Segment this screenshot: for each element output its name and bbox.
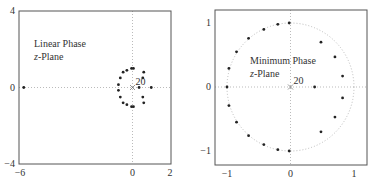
zero-marker [262, 143, 265, 146]
y-tick-label: 1 [206, 17, 211, 28]
zero-marker [341, 75, 344, 78]
zero-marker [235, 50, 238, 53]
x-tick-label: 0 [130, 167, 135, 178]
figure: −60240−420Linear Phasez-Plane−10110−120M… [0, 0, 373, 187]
zero-marker [122, 101, 125, 104]
zero-marker [226, 86, 229, 89]
zero-marker [228, 104, 231, 107]
zero-marker [320, 130, 323, 133]
plot-annotation: Linear Phase [34, 38, 86, 49]
zero-marker [142, 101, 145, 104]
plot-minimum-phase: −10110−120Minimum Phasez-Plane [200, 10, 367, 179]
zero-marker [262, 28, 265, 31]
zero-marker [276, 23, 279, 26]
zero-marker [142, 71, 145, 74]
zero-marker [119, 77, 122, 80]
y-tick-label: −4 [4, 158, 15, 169]
pole-order-label: 20 [294, 75, 304, 86]
zero-marker [288, 22, 291, 25]
zero-marker [125, 69, 128, 72]
plot-annotation: z-Plane [249, 68, 280, 79]
x-tick-label: −1 [222, 168, 233, 179]
zero-marker [276, 148, 279, 151]
zero-marker [228, 67, 231, 70]
y-tick-label: 4 [10, 5, 15, 16]
zero-marker [117, 83, 120, 86]
zero-marker [122, 71, 125, 74]
zero-marker [125, 103, 128, 106]
plot-linear-phase: −60240−420Linear Phasez-Plane [4, 5, 172, 178]
y-tick-label: 0 [206, 81, 211, 92]
zero-marker [334, 116, 337, 119]
y-tick-label: 0 [10, 82, 15, 93]
x-tick-label: 1 [352, 168, 357, 179]
zero-marker [119, 96, 122, 99]
zero-marker [320, 41, 323, 44]
x-tick-label: −6 [15, 167, 26, 178]
zero-marker [235, 121, 238, 124]
zero-marker [150, 86, 153, 89]
plot-annotation: z-Plane [33, 51, 64, 62]
zero-marker [341, 96, 344, 99]
zero-marker [22, 86, 25, 89]
zero-marker [132, 105, 135, 108]
x-tick-label: 0 [288, 168, 293, 179]
zero-marker [138, 86, 141, 89]
zero-marker [117, 89, 120, 92]
zero-marker [334, 56, 337, 59]
zero-marker [141, 96, 144, 99]
y-tick-label: −1 [200, 145, 211, 156]
zero-marker [288, 150, 291, 153]
zero-marker [313, 86, 316, 89]
zero-marker [132, 67, 135, 70]
x-tick-label: 2 [168, 167, 173, 178]
plot-annotation: Minimum Phase [250, 55, 316, 66]
zero-marker [247, 134, 250, 137]
zero-marker [247, 37, 250, 40]
pole-order-label: 20 [136, 76, 146, 87]
